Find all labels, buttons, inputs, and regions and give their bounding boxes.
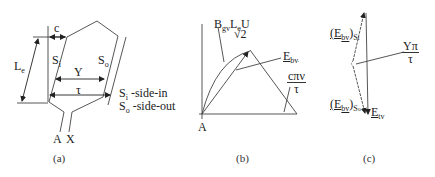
label-c: c [54,22,59,34]
label-origin-a: A [198,121,207,133]
legend-side-out: So -side-out [119,100,175,114]
label-y: Y [74,66,83,78]
label-ebv-si: (Ebv)Si [330,27,359,41]
label-tau: τ [76,84,81,96]
label-ebv: Ebv [283,50,298,64]
label-ebv-so: (Ebv)So [330,98,361,112]
label-x-terminal: X [66,133,75,145]
label-angle-c: Yπτ [402,40,419,65]
label-si: Si [52,54,61,68]
caption-a: (a) [53,152,65,164]
label-sqrt2: √2 [234,28,247,40]
dimension-arrows [22,37,110,101]
label-etv: Etv [371,106,385,120]
coil-outline [17,21,126,132]
label-a-terminal: A [53,133,62,145]
caption-c: (c) [363,152,375,164]
phasor-diagram-b [199,24,297,119]
label-so: So [98,54,109,68]
label-le: Le [14,60,25,74]
caption-b: (b) [236,152,249,164]
label-angle-b: cπντ [287,70,306,95]
